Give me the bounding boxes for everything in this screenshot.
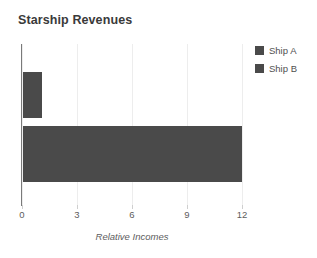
x-axis-label: Relative Incomes [0, 231, 264, 242]
x-axis-tick-label: 3 [65, 209, 89, 220]
x-axis-tick-label: 9 [175, 209, 199, 220]
legend-swatch-icon [255, 64, 264, 73]
legend-item-label: Ship A [269, 45, 296, 56]
bar-chart: Starship Revenues 036912 Relative Income… [0, 0, 317, 258]
bar [23, 126, 242, 182]
legend-item[interactable]: Ship A [255, 41, 297, 59]
chart-title: Starship Revenues [18, 13, 132, 27]
plot-area [22, 44, 242, 205]
gridline [242, 44, 243, 205]
legend-swatch-icon [255, 46, 264, 55]
x-axis-tick-label: 6 [120, 209, 144, 220]
bar [23, 72, 42, 118]
legend-item-label: Ship B [269, 63, 297, 74]
legend-item[interactable]: Ship B [255, 59, 297, 77]
x-axis-tick-label: 12 [230, 209, 254, 220]
chart-legend: Ship AShip B [255, 41, 297, 77]
x-axis-tick-label: 0 [10, 209, 34, 220]
